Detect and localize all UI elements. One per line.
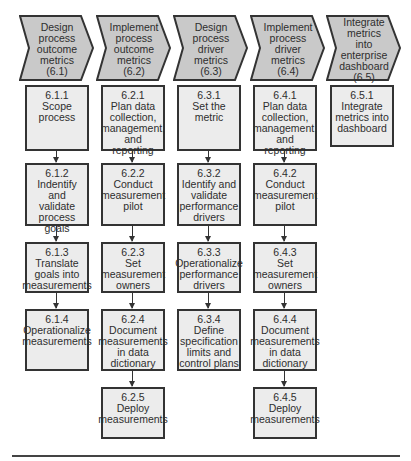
step-box-6-1-1: 6.1.1 Scope process [25,85,89,151]
step-text-line: measurements [98,414,167,425]
phase-label-line: enterprise [341,50,388,61]
step-text-line: dashboard [337,123,387,134]
step-text-line: metric [195,112,224,123]
phase-label: Integrate metrics into enterprise dashbo… [338,18,390,81]
step-box-6-3-3: 6.3.3 Operationalize performance drivers [177,242,241,293]
flow-arrow-icon [56,226,57,241]
step-text-line: measurements [22,336,91,347]
step-text-line: measurements [22,280,91,291]
flow-arrow-icon [208,226,209,241]
step-text-line: owners [116,280,150,291]
step-box-6-3-1: 6.3.1 Set the metric [177,85,241,151]
step-text-line: drivers [193,280,225,291]
phase-label-line: (6.3) [200,66,222,77]
step-text-line: owners [268,280,302,291]
phase-label-line: (6.2) [123,66,145,77]
phase-chevron-6-2: Implement process outcome metrics (6.2) [96,15,172,81]
step-text-line: drivers [193,212,225,223]
flow-arrow-icon [284,293,285,308]
flow-arrow-icon [132,293,133,308]
step-box-6-1-4: 6.1.4 Operationalize measurements [25,309,89,371]
flow-arrow-icon [56,151,57,162]
step-text-line: and reporting [103,134,163,156]
step-text-line: dictionary [111,358,156,369]
phase-label-line: dashboard [339,61,389,72]
flow-arrow-icon [208,293,209,308]
step-box-6-4-1: 6.4.1 Plan data collection, management, … [253,85,317,151]
step-box-6-1-3: 6.1.3 Translate goals into measurements [25,242,89,293]
phase-label: Implement process outcome metrics (6.2) [108,18,160,81]
phase-label: Design process driver metrics (6.3) [185,18,237,81]
step-text-line: control plans [179,358,239,369]
phase-label-line: metrics into [338,28,390,50]
step-box-6-5-1: 6.5.1 Integrate metrics into dashboard [330,85,394,147]
step-text-line: Indentify and [27,179,87,201]
step-text-line: process [39,112,76,123]
flow-arrow-icon [208,151,209,162]
phase-label: Implement process driver metrics (6.4) [262,18,314,81]
phase-chevron-6-4: Implement process driver metrics (6.4) [250,15,326,81]
step-box-6-3-4: 6.3.4 Define specification limits and co… [177,309,241,371]
step-box-6-3-2: 6.3.2 Identify and validate performance … [177,163,241,226]
bottom-divider [12,455,400,457]
step-text-line: pilot [275,201,294,212]
step-box-6-2-2: 6.2.2 Conduct measurement pilot [101,163,165,226]
step-box-6-1-2: 6.1.2 Indentify and validate process goa… [25,163,89,226]
flow-arrow-icon [132,151,133,162]
flow-arrow-icon [132,226,133,241]
phase-label: Design process outcome metrics (6.1) [31,18,83,81]
phase-label-line: (6.5) [353,72,375,83]
step-box-6-4-2: 6.4.2 Conduct measurement pilot [253,163,317,226]
flow-arrow-icon [284,371,285,386]
step-text-line: pilot [123,201,142,212]
step-box-6-2-3: 6.2.3 Set measurement owners [101,242,165,293]
step-box-6-4-5: 6.4.5 Deploy measurements [253,387,317,439]
step-box-6-2-5: 6.2.5 Deploy measurements [101,387,165,439]
step-box-6-2-1: 6.2.1 Plan data collection, management, … [101,85,165,151]
step-box-6-2-4: 6.2.4 Document measurements in data dict… [101,309,165,371]
phase-chevron-6-3: Design process driver metrics (6.3) [173,15,249,81]
flow-arrow-icon [56,293,57,308]
step-text-line: dictionary [263,358,308,369]
flow-arrow-icon [284,226,285,241]
flow-arrow-icon [132,371,133,386]
step-text-line: measurements [250,414,319,425]
step-text-line: process goals [27,212,87,234]
step-box-6-4-3: 6.4.3 Set measurement owners [253,242,317,293]
phase-chevron-6-5: Integrate metrics into enterprise dashbo… [326,15,402,81]
phase-chevron-6-1: Design process outcome metrics (6.1) [19,15,95,81]
phase-label-line: Integrate [343,17,384,28]
flow-arrow-icon [284,151,285,162]
step-box-6-4-4: 6.4.4 Document measurements in data dict… [253,309,317,371]
phase-label-line: (6.4) [277,66,299,77]
phase-label-line: (6.1) [46,66,68,77]
step-text-line: and reporting [255,134,315,156]
process-diagram: Design process outcome metrics (6.1) Imp… [0,0,411,461]
